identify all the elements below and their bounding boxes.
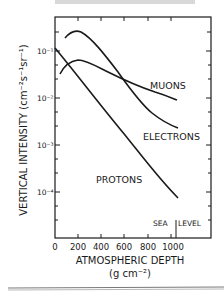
separator-line	[8, 287, 224, 288]
plot-frame	[55, 17, 211, 238]
muons-label: MUONS	[150, 80, 186, 91]
x-tick-label-1000: 1000	[162, 242, 184, 252]
y-tick-label-1e-2: 10⁻²	[37, 94, 54, 103]
cosmic-ray-intensity-chart: MUONS ELECTRONS PROTONS SEA LEVEL 10⁻¹ 1…	[0, 0, 224, 299]
x-tick-label-800: 800	[140, 242, 156, 252]
left-y-ticks	[55, 32, 60, 220]
y-tick-label-1e-4: 10⁻⁴	[37, 188, 54, 197]
cropped-header-text	[55, 0, 195, 4]
x-tick-label-200: 200	[70, 242, 86, 252]
y-tick-label-1e-3: 10⁻³	[37, 141, 54, 150]
x-axis-title: ATMOSPHERIC DEPTH	[76, 255, 185, 266]
bottom-x-ticks	[78, 234, 171, 238]
x-tick-label-600: 600	[116, 242, 132, 252]
y-tick-label-1e-1: 10⁻¹	[37, 47, 54, 56]
level-label: LEVEL	[178, 219, 202, 228]
x-tick-label-0: 0	[52, 242, 57, 252]
x-tick-label-400: 400	[93, 242, 109, 252]
sea-label: SEA	[153, 219, 168, 228]
protons-label: PROTONS	[96, 174, 142, 185]
separator-line-2	[8, 289, 224, 290]
electrons-label: ELECTRONS	[143, 131, 200, 142]
x-axis-units: (g cm⁻²)	[109, 268, 151, 279]
right-y-ticks	[206, 32, 211, 220]
y-axis-title: VERTICAL INTENSITY (cm⁻²s⁻¹sr⁻¹)	[18, 44, 29, 216]
